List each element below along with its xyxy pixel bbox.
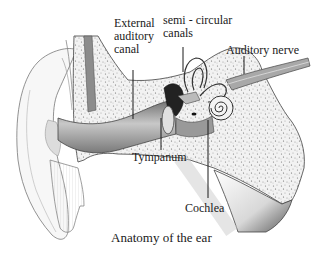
label-line: canals [163, 27, 232, 40]
cochlea-shape [209, 96, 233, 120]
label-semicircular-canals: semi - circular canals [163, 14, 232, 40]
label-external-auditory-canal: External auditory canal [114, 17, 155, 56]
diagram-title: Anatomy of the ear [111, 230, 212, 246]
ear-illustration [0, 0, 316, 253]
label-line: canal [114, 43, 155, 56]
label-cochlea: Cochlea [185, 202, 224, 215]
label-tympanum: Tympanum [132, 151, 187, 164]
label-auditory-nerve: Auditory nerve [226, 44, 299, 57]
temporal-bone [66, 36, 304, 204]
